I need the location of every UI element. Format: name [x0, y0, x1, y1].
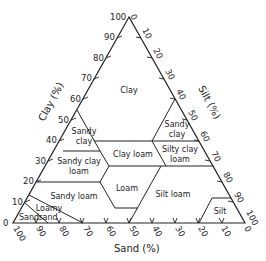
class-loamy-sand: Loamy [36, 204, 63, 213]
svg-text:20: 20 [23, 176, 34, 186]
svg-text:0: 0 [242, 224, 253, 234]
svg-text:40: 40 [150, 224, 164, 238]
svg-text:30: 30 [35, 156, 46, 166]
class-clay: Clay [120, 86, 138, 95]
svg-text:70: 70 [81, 73, 92, 83]
sand-axis-title: Sand (%) [114, 243, 160, 254]
svg-text:70: 70 [81, 224, 95, 238]
class-clay-loam: Clay loam [113, 150, 153, 159]
svg-text:90: 90 [104, 32, 115, 42]
class-sandy-clay-loam: Sandy clay [57, 157, 101, 166]
svg-text:clay: clay [169, 130, 186, 139]
svg-text:sand: sand [38, 213, 57, 222]
svg-text:60: 60 [70, 94, 81, 104]
svg-text:80: 80 [57, 224, 71, 238]
svg-text:100: 100 [244, 208, 260, 227]
svg-text:50: 50 [58, 115, 69, 125]
class-loam: Loam [116, 184, 138, 193]
sand-axis-ticks [34, 218, 224, 223]
svg-text:80: 80 [93, 53, 104, 63]
class-sandy-loam: Sandy loam [50, 192, 97, 201]
svg-text:100: 100 [110, 12, 126, 22]
soil-texture-triangle: 100 90 80 70 60 50 40 30 20 10 0 0 10 20… [0, 0, 266, 261]
class-sandy-clay-left: Sandy [72, 127, 97, 136]
class-sandy-clay-right: Sandy [165, 120, 190, 129]
svg-text:100: 100 [11, 224, 28, 243]
svg-text:20: 20 [151, 46, 165, 60]
svg-text:loam: loam [170, 155, 190, 164]
svg-text:30: 30 [163, 67, 177, 81]
silt-axis-title: Silt (%) [196, 84, 223, 121]
svg-text:loam: loam [69, 167, 89, 176]
svg-text:90: 90 [34, 224, 48, 238]
svg-text:20: 20 [196, 224, 210, 238]
svg-text:40: 40 [46, 135, 57, 145]
svg-text:10: 10 [12, 197, 23, 207]
svg-text:0: 0 [128, 12, 139, 21]
svg-text:60: 60 [104, 224, 118, 238]
class-silty-clay-loam: Silty clay [162, 145, 198, 154]
svg-text:clay: clay [76, 137, 93, 146]
svg-text:10: 10 [140, 26, 154, 40]
svg-text:10: 10 [219, 224, 233, 238]
svg-text:50: 50 [127, 224, 141, 238]
class-silt-loam: Silt loam [155, 190, 190, 199]
svg-text:40: 40 [174, 87, 188, 101]
class-sand: Sand [19, 213, 39, 222]
class-silt: Silt [214, 207, 227, 216]
svg-text:60: 60 [198, 129, 212, 143]
svg-text:90: 90 [232, 190, 246, 204]
sand-axis-labels: 100 90 80 70 60 50 40 30 20 10 0 [11, 224, 253, 243]
silt-axis-labels: 0 10 20 30 40 50 60 70 80 90 100 [128, 12, 260, 227]
svg-text:0: 0 [3, 218, 8, 228]
svg-text:30: 30 [173, 224, 187, 238]
svg-text:70: 70 [209, 149, 223, 163]
svg-text:80: 80 [221, 170, 235, 184]
